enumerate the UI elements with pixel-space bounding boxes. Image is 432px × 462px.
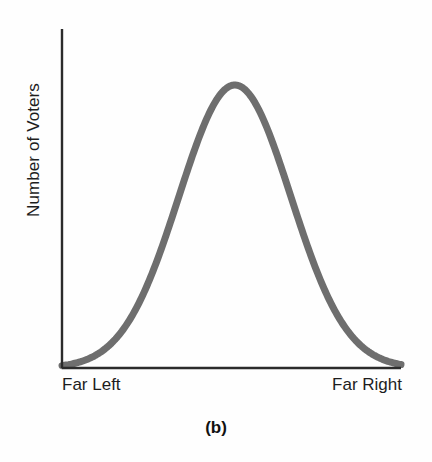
- x-axis-label-right: Far Right: [332, 376, 402, 395]
- figure-panel-b: Number of Voters Far Left Far Right (b): [0, 0, 432, 462]
- normal-distribution-curve: [62, 85, 401, 366]
- x-axis-end-labels: Far Left Far Right: [62, 376, 402, 395]
- x-axis-label-left: Far Left: [62, 376, 121, 395]
- bell-curve-plot: [0, 0, 432, 400]
- figure-caption: (b): [0, 418, 432, 438]
